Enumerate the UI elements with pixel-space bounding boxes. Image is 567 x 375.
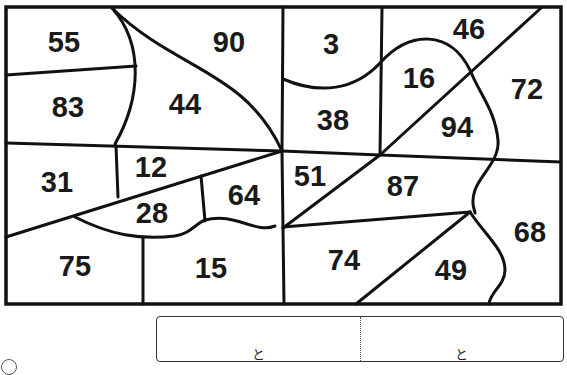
answer-box[interactable]: と と — [156, 316, 564, 362]
region-number: 94 — [441, 111, 473, 143]
region-number: 31 — [41, 166, 73, 198]
region-number: 83 — [52, 91, 84, 123]
region-number: 16 — [403, 62, 435, 94]
region-number: 44 — [169, 88, 201, 120]
region-puzzle-map: 5590346834416723894311264518728687515744… — [0, 0, 567, 310]
region-number: 64 — [228, 179, 260, 211]
region-number: 38 — [317, 104, 349, 136]
joiner-text: と — [455, 344, 468, 363]
region-number: 12 — [135, 151, 167, 183]
region-number: 87 — [387, 170, 419, 202]
region-number: 51 — [294, 160, 326, 192]
region-number: 28 — [136, 197, 168, 229]
region-number: 72 — [511, 73, 543, 105]
region-number: 68 — [514, 216, 546, 248]
circle-marker-icon — [1, 359, 17, 375]
region-number: 90 — [213, 26, 245, 58]
answer-cell-1[interactable]: と — [157, 317, 360, 361]
region-number: 74 — [328, 244, 360, 276]
region-number: 46 — [453, 13, 485, 45]
region-number: 15 — [195, 252, 227, 284]
joiner-text: と — [252, 344, 265, 363]
region-number: 49 — [435, 254, 467, 286]
region-number: 55 — [48, 26, 80, 58]
answer-cell-2[interactable]: と — [360, 317, 564, 361]
region-number: 3 — [323, 28, 339, 60]
region-number: 75 — [59, 250, 91, 282]
